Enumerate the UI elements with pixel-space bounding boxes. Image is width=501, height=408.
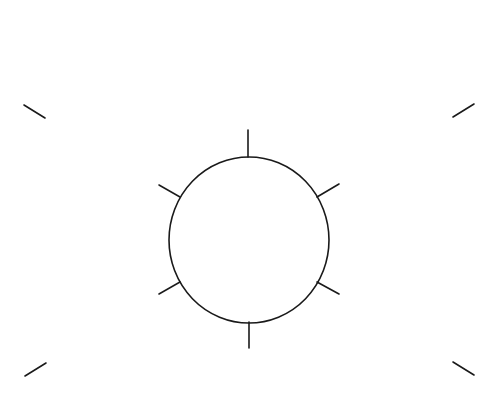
corner-mark-top-right <box>453 104 474 117</box>
corner-mark-top-left <box>24 105 45 118</box>
diagram-canvas <box>0 0 501 408</box>
circle-with-ticks-diagram <box>0 0 501 408</box>
corner-mark-bottom-left <box>25 363 46 376</box>
radial-ticks-group <box>159 130 339 348</box>
corner-mark-bottom-right <box>453 362 474 375</box>
radial-tick-lower-right <box>317 282 339 294</box>
radial-tick-upper-left <box>159 185 180 197</box>
radial-tick-lower-left <box>159 282 180 294</box>
main-circle <box>169 157 329 323</box>
radial-tick-upper-right <box>317 184 339 197</box>
